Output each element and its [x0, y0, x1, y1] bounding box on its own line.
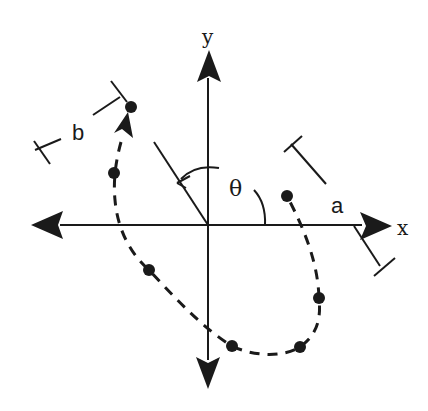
trajectory-point [125, 101, 137, 113]
y-axis-label: y [201, 25, 214, 49]
theta-arc-lower [254, 190, 265, 225]
trajectory-arrow-icon [114, 112, 133, 138]
dimension-a-label: a [331, 193, 344, 218]
y-axis-up-arrow-icon [197, 50, 221, 82]
trajectory-point [313, 292, 325, 304]
rotated-axis-line [154, 142, 208, 225]
y-axis [196, 50, 221, 389]
trajectory-point [143, 264, 155, 276]
trajectory-point [226, 340, 238, 352]
theta-label: θ [229, 176, 242, 201]
x-axis-left-arrow-icon [31, 211, 63, 239]
trajectory-point [281, 190, 293, 202]
dashed-trajectory [114, 142, 319, 354]
trajectory-point [294, 341, 306, 353]
trajectory-points [108, 101, 325, 353]
dimension-b-label: b [72, 120, 84, 145]
rotation-diagram: x y θ a b [0, 0, 428, 411]
x-axis-right-arrow-icon [360, 212, 392, 240]
y-axis-down-arrow-icon [196, 357, 220, 389]
trajectory-point [108, 167, 120, 179]
x-axis-label: x [397, 216, 409, 240]
